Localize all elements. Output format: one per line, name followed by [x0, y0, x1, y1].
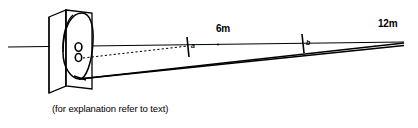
figure-container: 6m 12m a b (for explanation refer to tex…	[0, 0, 418, 128]
tick-mark-b	[302, 34, 304, 53]
ray-lower	[79, 46, 404, 80]
tick-mark-a	[187, 37, 189, 57]
ray-fan	[79, 43, 404, 79]
label-distance-6m: 6m	[216, 24, 230, 34]
pupil-lower	[75, 54, 81, 62]
label-point-a: a	[191, 42, 195, 49]
pupil-upper	[75, 43, 82, 51]
label-point-b: b	[306, 39, 310, 46]
figure-caption: (for explanation refer to text)	[52, 103, 168, 114]
dashed-ray	[83, 46, 188, 58]
label-distance-12m: 12m	[378, 19, 397, 29]
axis-dot-6m	[217, 44, 219, 46]
